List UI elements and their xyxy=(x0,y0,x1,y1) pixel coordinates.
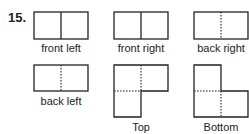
view-label: front left xyxy=(41,42,81,54)
view-front-right: front right xyxy=(114,12,168,54)
problem-number: 15. xyxy=(8,10,26,25)
view-label: Top xyxy=(132,121,150,133)
view-label: back right xyxy=(197,42,245,54)
views-diagram: 15. front left front right back right ba… xyxy=(0,0,249,134)
view-label: front right xyxy=(118,42,164,54)
view-back-left: back left xyxy=(34,65,88,107)
view-label: back left xyxy=(41,95,82,107)
view-bottom: Bottom xyxy=(194,65,248,133)
view-front-left: front left xyxy=(34,12,88,54)
view-label: Bottom xyxy=(204,121,239,133)
view-top: Top xyxy=(114,65,168,133)
view-back-right: back right xyxy=(194,12,248,54)
